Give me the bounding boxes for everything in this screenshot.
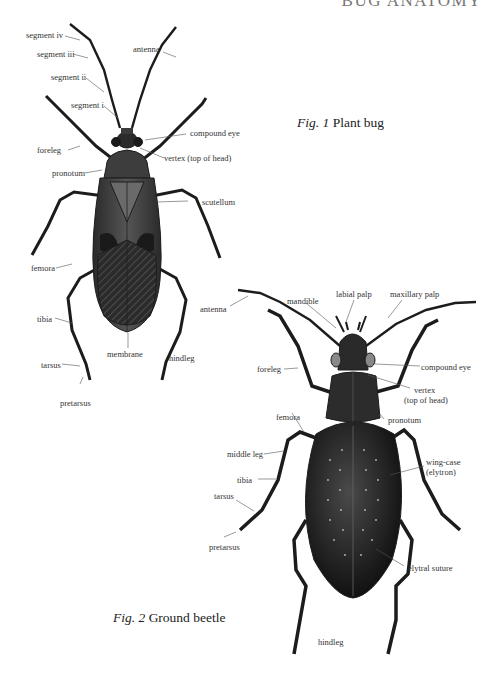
label-wing-case-sub: (elytron) bbox=[426, 468, 456, 477]
label-membrane: membrane bbox=[107, 350, 143, 359]
label-pronotum-fig2: pronotum bbox=[388, 416, 421, 425]
label-compound-eye-fig1: compound eye bbox=[190, 129, 240, 138]
label-tibia-fig1: tibia bbox=[37, 315, 52, 324]
label-pronotum-fig1: pronotum bbox=[52, 169, 85, 178]
label-antenna-fig1: antenna bbox=[133, 45, 159, 54]
label-elytral-suture: elytral suture bbox=[408, 564, 453, 573]
label-vertex-fig2-sub: (top of head) bbox=[404, 396, 448, 405]
label-scutellum: scutellum bbox=[202, 198, 235, 207]
label-tarsus-fig2: tarsus bbox=[214, 492, 234, 501]
label-segment-i: segment i bbox=[71, 101, 104, 110]
figure1-caption: Fig. 1 Plant bug bbox=[297, 115, 384, 131]
label-hindleg-fig2: hindleg bbox=[318, 638, 344, 647]
label-segment-ii: segment ii bbox=[51, 73, 86, 82]
label-antenna-fig2: antenna bbox=[200, 305, 226, 314]
label-segment-iii: segment iii bbox=[37, 50, 75, 59]
figure2-caption: Fig. 2 Ground beetle bbox=[113, 610, 225, 626]
label-wing-case: wing-case bbox=[426, 458, 460, 467]
label-foreleg-fig1: foreleg bbox=[37, 146, 61, 155]
figure1-caption-title: Plant bug bbox=[333, 115, 384, 130]
label-tibia-fig2: tibia bbox=[237, 476, 252, 485]
figure1-caption-prefix: Fig. 1 bbox=[297, 115, 329, 130]
label-vertex-fig2: vertex bbox=[414, 386, 435, 395]
label-hindleg-fig1: hindleg bbox=[169, 354, 195, 363]
label-compound-eye-fig2: compound eye bbox=[421, 363, 471, 372]
figure2-caption-prefix: Fig. 2 bbox=[113, 610, 145, 625]
label-labial-palp: labial palp bbox=[336, 290, 372, 299]
label-segment-iv: segment iv bbox=[26, 31, 63, 40]
label-vertex-fig1: vertex (top of head) bbox=[164, 154, 231, 163]
label-tarsus-fig1: tarsus bbox=[41, 361, 61, 370]
label-maxillary-palp: maxillary palp bbox=[390, 290, 439, 299]
label-femora-fig1: femora bbox=[31, 264, 55, 273]
label-femora-fig2: femora bbox=[276, 413, 300, 422]
label-foreleg-fig2: foreleg bbox=[257, 365, 281, 374]
label-pretarsus-fig2: pretarsus bbox=[209, 543, 240, 552]
label-middle-leg: middle leg bbox=[227, 450, 263, 459]
label-pretarsus-fig1: pretarsus bbox=[60, 399, 91, 408]
label-mandible: mandible bbox=[287, 297, 319, 306]
figure2-caption-title: Ground beetle bbox=[149, 610, 226, 625]
